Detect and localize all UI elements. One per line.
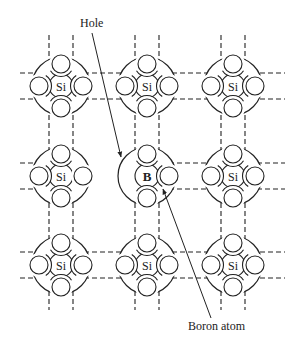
electron (224, 278, 242, 296)
electron (30, 77, 48, 95)
atom-label: Si (56, 170, 67, 184)
electron (138, 55, 156, 73)
electron (246, 77, 264, 95)
electron (160, 256, 178, 274)
electron (224, 145, 242, 163)
atom-label: Si (142, 259, 153, 273)
electron (52, 145, 70, 163)
electron (202, 167, 220, 185)
electron (224, 189, 242, 207)
electron (224, 99, 242, 117)
electron (74, 167, 92, 185)
electron (52, 278, 70, 296)
atom-label: Si (228, 170, 239, 184)
electron (224, 234, 242, 252)
electron (52, 55, 70, 73)
electron (138, 99, 156, 117)
electron (116, 256, 134, 274)
hole-label: Hole (80, 16, 103, 30)
electron (138, 234, 156, 252)
electron (116, 77, 134, 95)
electron (138, 278, 156, 296)
electron (52, 189, 70, 207)
silicon-atom: Si (27, 142, 95, 210)
atom-label: Si (56, 259, 67, 273)
electron (52, 99, 70, 117)
electron (202, 77, 220, 95)
electron (74, 77, 92, 95)
silicon-atom: Si (199, 231, 267, 299)
silicon-atom: Si (27, 231, 95, 299)
atom-label: Si (228, 259, 239, 273)
electron (224, 55, 242, 73)
electron (246, 167, 264, 185)
electron (160, 167, 178, 185)
silicon-atom: Si (27, 52, 95, 120)
electron (160, 77, 178, 95)
electron (202, 256, 220, 274)
electron (30, 256, 48, 274)
electron (138, 189, 156, 207)
atom-label: Si (56, 80, 67, 94)
silicon-atom: Si (113, 52, 181, 120)
electron (30, 167, 48, 185)
silicon-atom: Si (199, 52, 267, 120)
atom-label: B (143, 169, 152, 184)
atom-label: Si (142, 80, 153, 94)
boron-doped-silicon-lattice-diagram: SiSiSiSiBSiSiSiSi HoleBoron atom (0, 0, 298, 351)
electron (246, 256, 264, 274)
silicon-atom: Si (199, 142, 267, 210)
boron-atom: B (118, 142, 181, 210)
electron (138, 145, 156, 163)
atom-label: Si (228, 80, 239, 94)
atoms-group: SiSiSiSiBSiSiSiSi (27, 52, 267, 299)
electron (52, 234, 70, 252)
silicon-atom: Si (113, 231, 181, 299)
hole-pointer-arrow (92, 33, 121, 157)
boron-atom-label: Boron atom (188, 319, 246, 333)
electron (74, 256, 92, 274)
